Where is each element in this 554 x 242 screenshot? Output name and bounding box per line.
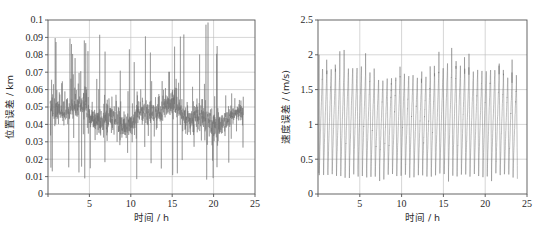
y-tick-label: 0.08	[26, 49, 44, 60]
x-axis-title: 时间 / h	[405, 212, 440, 223]
chart-position-error: 00.010.020.030.040.050.060.070.080.090.1…	[0, 0, 277, 242]
x-tick-label: 5	[357, 198, 362, 209]
x-tick-label: 20	[209, 198, 219, 209]
y-axis-title: 位置误差 / km	[4, 75, 15, 139]
velocity-error-plot: 00.511.522.5510152025时间 / h速度误差 / (m/s)	[277, 0, 554, 242]
y-axis-title: 速度误差 / (m/s)	[280, 70, 291, 144]
position-error-plot: 00.010.020.030.040.050.060.070.080.090.1…	[0, 0, 277, 242]
x-tick-label: 20	[480, 198, 490, 209]
y-tick-label: 1.5	[301, 84, 314, 95]
y-tick-label: 0	[308, 188, 313, 199]
y-tick-label: 2	[308, 49, 313, 60]
y-tick-label: 0.06	[26, 84, 44, 95]
y-tick-label: 2.5	[301, 14, 314, 25]
x-tick-label: 5	[87, 198, 92, 209]
y-tick-label: 0	[38, 188, 43, 199]
x-tick-label: 10	[126, 198, 136, 209]
y-tick-label: 0.5	[301, 154, 314, 165]
x-tick-label: 25	[250, 198, 260, 209]
x-tick-label: 25	[522, 198, 532, 209]
x-tick-label: 15	[438, 198, 448, 209]
y-tick-label: 0.03	[26, 136, 44, 147]
y-tick-label: 0.1	[31, 14, 44, 25]
chart-velocity-error: 00.511.522.5510152025时间 / h速度误差 / (m/s)	[277, 0, 554, 242]
y-tick-label: 0.04	[26, 119, 44, 130]
x-tick-label: 10	[397, 198, 407, 209]
y-tick-label: 0.01	[26, 171, 44, 182]
y-tick-label: 1	[308, 119, 313, 130]
y-tick-label: 0.07	[26, 67, 44, 78]
x-tick-label: 15	[167, 198, 177, 209]
y-tick-label: 0.09	[26, 32, 44, 43]
figure-page: 00.010.020.030.040.050.060.070.080.090.1…	[0, 0, 554, 242]
x-axis-title: 时间 / h	[134, 212, 169, 223]
y-tick-label: 0.02	[26, 154, 44, 165]
y-tick-label: 0.05	[26, 101, 44, 112]
cropped-caption-bottom	[0, 232, 554, 242]
